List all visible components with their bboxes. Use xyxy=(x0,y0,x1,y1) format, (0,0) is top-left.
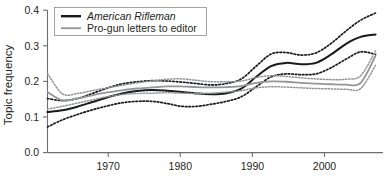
y-axis-title: Topic frequency xyxy=(2,44,14,125)
legend-label-pro-gun-letters: Pro-gun letters to editor xyxy=(87,22,197,34)
x-tick-label-1990: 1990 xyxy=(241,160,265,172)
y-axis: 0.4 0.3 0.2 0.1 0.0 xyxy=(24,4,47,158)
y-tick-label-2: 0.2 xyxy=(24,75,39,87)
x-axis: 1970 1980 1990 2000 xyxy=(48,153,384,172)
x-tick-label-2000: 2000 xyxy=(313,160,337,172)
chart-legend: American Rifleman Pro-gun letters to edi… xyxy=(55,8,207,36)
chart-figure: Topic frequency 0.4 0.3 0.2 0.1 0.0 1970… xyxy=(0,0,391,187)
x-tick-label-1970: 1970 xyxy=(97,160,121,172)
y-tick-label-4: 0.0 xyxy=(24,146,39,158)
x-tick-label-1980: 1980 xyxy=(169,160,193,172)
series-american-rifleman xyxy=(48,34,376,112)
y-tick-label-3: 0.1 xyxy=(24,111,39,123)
y-tick-label-0: 0.4 xyxy=(24,4,39,16)
legend-label-american-rifleman: American Rifleman xyxy=(86,10,176,22)
y-tick-label-1: 0.3 xyxy=(24,40,39,52)
topic-frequency-line-chart: Topic frequency 0.4 0.3 0.2 0.1 0.0 1970… xyxy=(0,0,391,187)
